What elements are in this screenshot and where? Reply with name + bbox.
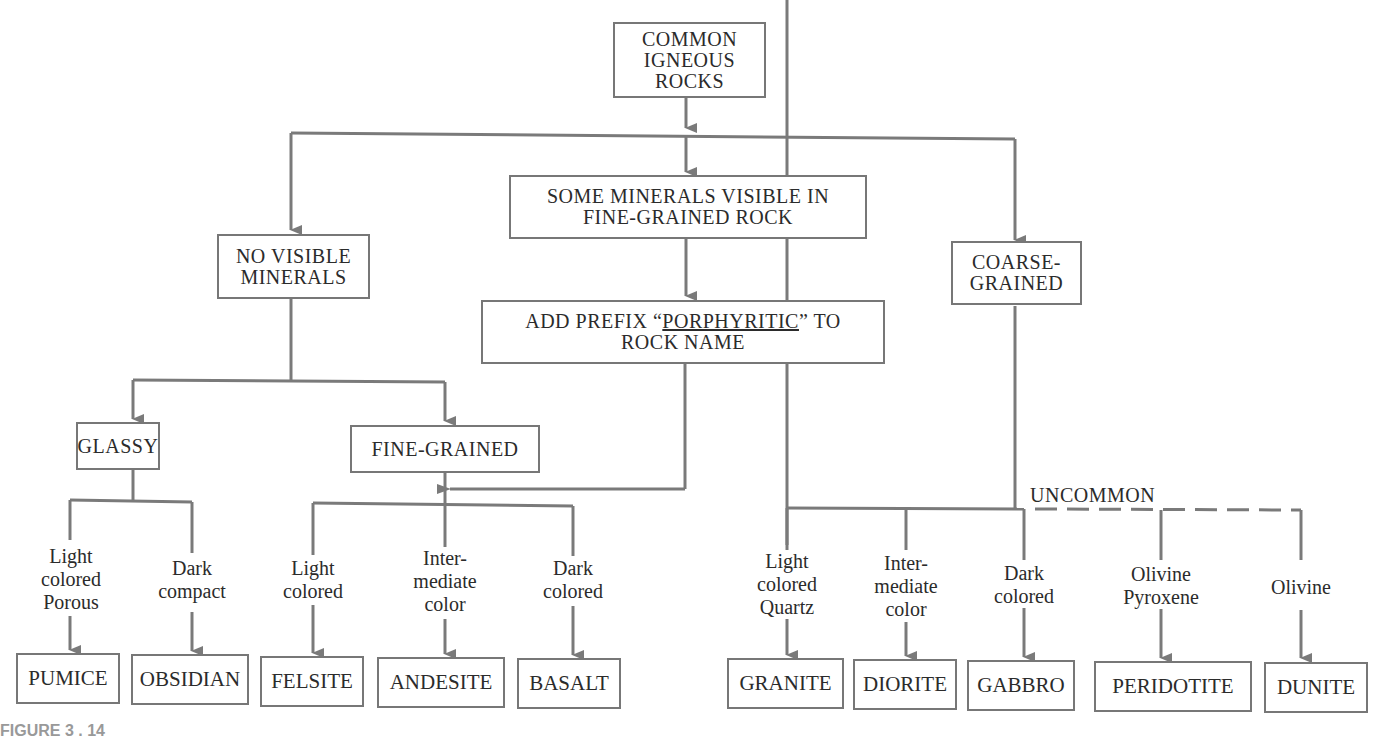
- criteria-text: colored: [268, 580, 358, 603]
- no-visible-line-2: MINERALS: [236, 267, 351, 288]
- criteria-felsite: Light colored: [268, 557, 358, 603]
- coarse-line-1: COARSE-: [970, 252, 1064, 273]
- criteria-text: compact: [142, 580, 242, 603]
- root-line-3: ROCKS: [642, 71, 737, 92]
- rock-basalt: BASALT: [517, 658, 621, 709]
- criteria-text: Porous: [30, 591, 112, 614]
- criteria-text: colored: [979, 585, 1069, 608]
- node-glassy: GLASSY: [76, 422, 160, 470]
- criteria-basalt: Dark colored: [528, 557, 618, 603]
- coarse-line-2: GRAINED: [970, 273, 1064, 294]
- criteria-text: Inter-: [861, 552, 951, 575]
- rock-gabbro: GABBRO: [967, 660, 1075, 711]
- rock-diorite: DIORITE: [853, 659, 957, 710]
- uncommon-label: UNCOMMON: [1030, 484, 1155, 507]
- porphyritic-underlined-term: PORPHYRITIC: [662, 310, 799, 332]
- rock-dunite: DUNITE: [1264, 662, 1368, 713]
- criteria-text: Quartz: [742, 596, 832, 619]
- criteria-text: colored: [30, 568, 112, 591]
- criteria-text: color: [400, 593, 490, 616]
- root-node-common-igneous-rocks: COMMON IGNEOUS ROCKS: [613, 22, 766, 98]
- criteria-dunite: Olivine: [1261, 576, 1341, 599]
- criteria-text: colored: [742, 573, 832, 596]
- criteria-obsidian: Dark compact: [142, 557, 242, 603]
- criteria-text: Pyroxene: [1106, 586, 1216, 609]
- rock-name: GRANITE: [739, 672, 831, 694]
- rock-name: OBSIDIAN: [140, 668, 240, 690]
- criteria-peridotite: Olivine Pyroxene: [1106, 563, 1216, 609]
- some-visible-line-1: SOME MINERALS VISIBLE IN: [547, 186, 829, 207]
- criteria-text: Inter-: [400, 547, 490, 570]
- criteria-gabbro: Dark colored: [979, 562, 1069, 608]
- criteria-text: Dark: [979, 562, 1069, 585]
- rock-andesite: ANDESITE: [377, 657, 505, 708]
- rock-felsite: FELSITE: [260, 656, 364, 707]
- porphyritic-suffix-text: ” TO: [799, 310, 841, 332]
- rock-name: PERIDOTITE: [1112, 675, 1233, 697]
- porphyritic-line-1: ADD PREFIX “PORPHYRITIC” TO: [525, 311, 841, 332]
- node-add-prefix-porphyritic: ADD PREFIX “PORPHYRITIC” TO ROCK NAME: [481, 300, 885, 364]
- glassy-label: GLASSY: [78, 436, 159, 457]
- criteria-text: Light: [268, 557, 358, 580]
- criteria-text: mediate: [400, 570, 490, 593]
- rock-name: GABBRO: [977, 674, 1065, 696]
- igneous-rock-flowchart: COMMON IGNEOUS ROCKS NO VISIBLE MINERALS…: [0, 0, 1381, 737]
- rock-name: BASALT: [529, 672, 609, 694]
- criteria-text: Light: [742, 550, 832, 573]
- criteria-diorite: Inter- mediate color: [861, 552, 951, 621]
- root-line-1: COMMON: [642, 29, 737, 50]
- rock-name: DUNITE: [1277, 676, 1355, 698]
- rock-obsidian: OBSIDIAN: [131, 654, 249, 705]
- rock-peridotite: PERIDOTITE: [1094, 661, 1252, 712]
- criteria-andesite: Inter- mediate color: [400, 547, 490, 616]
- node-fine-grained: FINE-GRAINED: [350, 425, 540, 473]
- criteria-text: Olivine: [1106, 563, 1216, 586]
- some-visible-line-2: FINE-GRAINED ROCK: [547, 207, 829, 228]
- node-some-minerals-visible: SOME MINERALS VISIBLE IN FINE-GRAINED RO…: [509, 175, 867, 239]
- rock-name: PUMICE: [28, 667, 107, 689]
- rock-pumice: PUMICE: [16, 653, 120, 704]
- porphyritic-line-2: ROCK NAME: [525, 332, 841, 353]
- criteria-text: Olivine: [1261, 576, 1341, 599]
- fine-grained-label: FINE-GRAINED: [371, 439, 518, 460]
- criteria-text: colored: [528, 580, 618, 603]
- criteria-text: Dark: [528, 557, 618, 580]
- criteria-pumice: Light colored Porous: [30, 545, 112, 614]
- criteria-text: mediate: [861, 575, 951, 598]
- root-line-2: IGNEOUS: [642, 50, 737, 71]
- criteria-text: color: [861, 598, 951, 621]
- node-coarse-grained: COARSE- GRAINED: [951, 241, 1082, 305]
- criteria-granite: Light colored Quartz: [742, 550, 832, 619]
- criteria-text: Light: [30, 545, 112, 568]
- no-visible-line-1: NO VISIBLE: [236, 246, 351, 267]
- node-no-visible-minerals: NO VISIBLE MINERALS: [217, 234, 370, 299]
- connector-lines: [0, 0, 1381, 737]
- figure-caption-fragment: FIGURE 3 . 14: [0, 722, 105, 737]
- rock-granite: GRANITE: [727, 658, 844, 709]
- rock-name: DIORITE: [863, 673, 947, 695]
- rock-name: ANDESITE: [390, 671, 493, 693]
- criteria-text: Dark: [142, 557, 242, 580]
- rock-name: FELSITE: [271, 670, 353, 692]
- porphyritic-prefix-text: ADD PREFIX “: [525, 310, 662, 332]
